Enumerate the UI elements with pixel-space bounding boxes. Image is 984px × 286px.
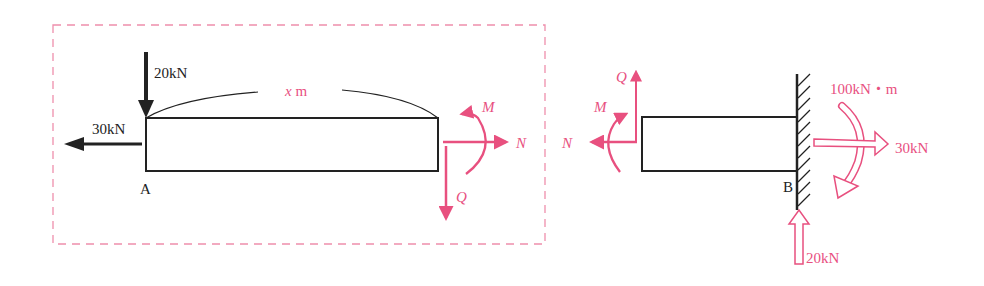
point-a-label: A [140, 181, 151, 197]
reaction-moment-label: 100kN・m [830, 81, 898, 97]
left-cut-forces [443, 114, 506, 219]
right-cut-forces [592, 72, 637, 172]
point-b-label: B [783, 179, 793, 195]
vertical-load-label: 20kN [154, 65, 188, 81]
left-shear-label: Q [456, 189, 467, 205]
vertical-load-arrow [138, 52, 154, 118]
right-normal-label: N [561, 135, 573, 151]
right-moment-label: M [593, 99, 608, 115]
dimension-arc-right [342, 90, 438, 118]
horizontal-load-label: 30kN [92, 121, 126, 137]
reaction-moment-arrow [834, 106, 861, 198]
reaction-horizontal-arrow [814, 132, 888, 155]
length-label: x m [284, 83, 307, 99]
left-moment-label: M [481, 99, 496, 115]
moment-arc-left [462, 114, 486, 175]
horizontal-load-arrow [64, 137, 142, 151]
reaction-horizontal-label: 30kN [895, 140, 929, 156]
dimension-arc-left [146, 92, 258, 118]
left-normal-label: N [515, 135, 527, 151]
reaction-vertical-label: 20kN [806, 250, 840, 266]
left-beam-segment [146, 118, 438, 171]
free-body-boundary [53, 25, 545, 244]
fixed-support-wall [797, 74, 810, 210]
right-shear-label: Q [616, 69, 627, 85]
free-body-diagram: x m 20kN 30kN A M N Q Q M N [0, 0, 984, 286]
right-beam-segment [642, 117, 797, 171]
